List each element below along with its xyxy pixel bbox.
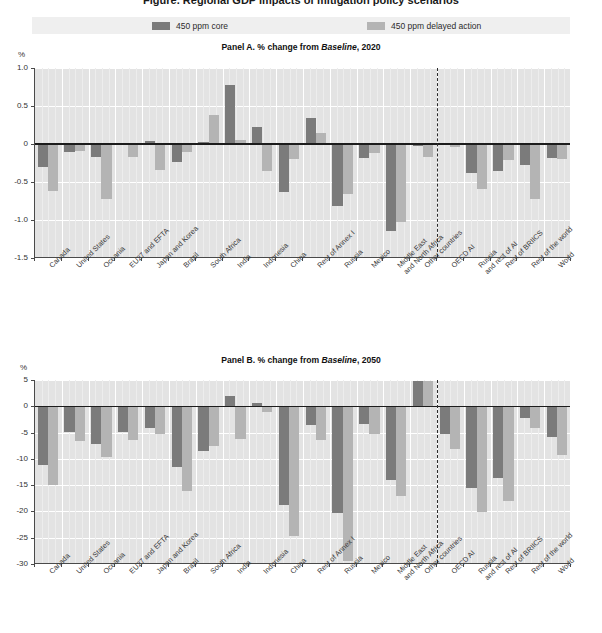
bar bbox=[252, 127, 262, 144]
legend-label-core: 450 ppm core bbox=[176, 22, 228, 31]
x-axis-tick-mark bbox=[463, 258, 464, 261]
gridline-vertical bbox=[491, 380, 492, 563]
bar bbox=[547, 144, 557, 158]
panel-a-axis-unit: % bbox=[18, 50, 25, 59]
bar bbox=[155, 144, 165, 170]
gridline-fine bbox=[310, 68, 311, 257]
bar bbox=[520, 144, 530, 165]
bar bbox=[182, 406, 192, 491]
bar bbox=[493, 144, 503, 171]
gridline-fine bbox=[370, 68, 371, 257]
bar bbox=[91, 144, 101, 157]
x-axis-tick-mark bbox=[570, 258, 571, 261]
y-axis-tick-label: 0 bbox=[2, 402, 28, 410]
gridline-fine bbox=[450, 68, 451, 257]
x-axis-tick-mark bbox=[114, 564, 115, 567]
bar bbox=[423, 381, 433, 407]
gridline-vertical bbox=[303, 68, 304, 257]
gridline-fine bbox=[136, 68, 137, 257]
x-axis-tick-mark bbox=[222, 258, 223, 261]
x-axis-tick-mark bbox=[248, 258, 249, 261]
bar bbox=[172, 144, 182, 162]
bar bbox=[101, 144, 111, 199]
gridline-fine bbox=[216, 68, 217, 257]
bar bbox=[557, 406, 567, 454]
gridline-fine bbox=[417, 380, 418, 563]
bar bbox=[530, 406, 540, 428]
x-axis-tick-mark bbox=[168, 258, 169, 261]
x-axis-tick-mark bbox=[490, 258, 491, 261]
x-axis-tick-mark bbox=[195, 564, 196, 567]
bar bbox=[306, 118, 316, 144]
gridline-fine bbox=[95, 68, 96, 257]
y-axis-tick-label: -1.5 bbox=[2, 254, 28, 262]
bar bbox=[118, 406, 128, 432]
x-axis-tick-mark bbox=[114, 258, 115, 261]
gridline-vertical bbox=[89, 380, 90, 563]
bar bbox=[413, 381, 423, 407]
bar bbox=[38, 144, 48, 167]
bar bbox=[306, 406, 316, 424]
gridline-fine bbox=[82, 68, 83, 257]
gridline-vertical bbox=[223, 68, 224, 257]
bar bbox=[64, 406, 74, 431]
x-axis-tick-mark bbox=[34, 564, 35, 567]
bar bbox=[530, 144, 540, 199]
gridline-fine bbox=[444, 68, 445, 257]
gridline-fine bbox=[229, 380, 230, 563]
y-axis-tick-label: -25 bbox=[2, 534, 28, 542]
y-axis-tick-label: 1.0 bbox=[2, 64, 28, 72]
bar bbox=[466, 406, 476, 487]
bar bbox=[101, 406, 111, 456]
bar bbox=[332, 144, 342, 206]
bar bbox=[182, 144, 192, 152]
bar bbox=[128, 406, 138, 440]
x-axis-tick-mark bbox=[463, 564, 464, 567]
x-axis-tick-mark bbox=[409, 564, 410, 567]
gridline-vertical bbox=[62, 68, 63, 257]
bar bbox=[332, 406, 342, 513]
y-axis-tick-label: -0.5 bbox=[2, 178, 28, 186]
bar bbox=[503, 144, 513, 160]
x-axis-tick-mark bbox=[275, 258, 276, 261]
x-axis-tick-mark bbox=[61, 564, 62, 567]
y-axis-tick-label: -5 bbox=[2, 429, 28, 437]
y-axis-tick-mark bbox=[31, 182, 34, 183]
y-axis-tick-mark bbox=[31, 380, 34, 381]
gridline-vertical bbox=[249, 68, 250, 257]
gridline-vertical bbox=[115, 380, 116, 563]
gridline-vertical bbox=[410, 380, 411, 563]
legend-swatch-delayed bbox=[367, 22, 385, 30]
bar bbox=[289, 406, 299, 535]
gridline-vertical bbox=[544, 68, 545, 257]
gridline-fine bbox=[511, 68, 512, 257]
bar bbox=[198, 406, 208, 451]
bar bbox=[316, 133, 326, 144]
gridline-vertical bbox=[62, 380, 63, 563]
x-axis-tick-mark bbox=[409, 258, 410, 261]
legend-entry-delayed: 450 ppm delayed action bbox=[367, 21, 481, 31]
x-axis-tick-mark bbox=[275, 564, 276, 567]
x-axis-tick-mark bbox=[570, 564, 571, 567]
gridline-fine bbox=[256, 380, 257, 563]
bar bbox=[289, 144, 299, 159]
gridline-fine bbox=[69, 68, 70, 257]
gridline-vertical bbox=[169, 68, 170, 257]
panel-a-x-axis-labels: CanadaUnited StatesOceaniaEU27 and EFTAJ… bbox=[0, 260, 602, 340]
gridline-fine bbox=[182, 68, 183, 257]
gridline-fine bbox=[296, 68, 297, 257]
y-axis-tick-mark bbox=[31, 511, 34, 512]
y-axis-tick-mark bbox=[31, 68, 34, 69]
gridline-vertical bbox=[330, 68, 331, 257]
gridline-fine bbox=[75, 68, 76, 257]
x-axis-tick-mark bbox=[61, 258, 62, 261]
gridline-fine bbox=[122, 68, 123, 257]
bar bbox=[477, 406, 487, 512]
bar bbox=[520, 406, 530, 418]
bar bbox=[64, 144, 74, 152]
y-axis-tick-label: -30 bbox=[2, 560, 28, 568]
x-axis-tick-mark bbox=[141, 564, 142, 567]
bar bbox=[128, 144, 138, 157]
gridline-vertical bbox=[330, 380, 331, 563]
x-axis-tick-mark bbox=[195, 258, 196, 261]
